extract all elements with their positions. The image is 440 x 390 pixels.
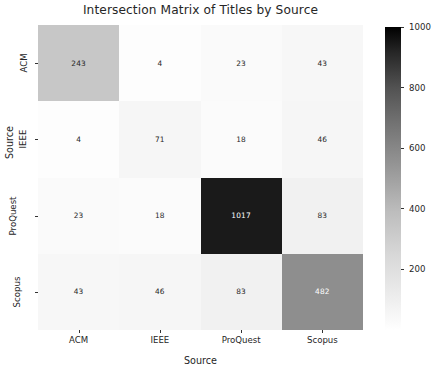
cell-value: 83 — [317, 211, 327, 220]
cell-value: 1017 — [231, 211, 251, 220]
cell-value: 83 — [236, 287, 246, 296]
heatmap-cell[interactable]: 1017 — [201, 178, 282, 254]
cell-value: 46 — [317, 135, 327, 144]
heatmap-plot-area: 243 4 23 43 4 71 18 46 23 18 1017 83 43 … — [38, 25, 363, 330]
chart-title: Intersection Matrix of Titles by Source — [38, 3, 363, 17]
cell-value: 18 — [236, 135, 246, 144]
heatmap-grid: 243 4 23 43 4 71 18 46 23 18 1017 83 43 … — [38, 25, 363, 330]
heatmap-cell[interactable]: 46 — [282, 101, 363, 177]
cell-value: 23 — [236, 59, 246, 68]
heatmap-cell[interactable]: 4 — [119, 25, 200, 101]
cell-value: 43 — [74, 287, 84, 296]
x-axis-tick-ieee: IEEE — [119, 330, 200, 346]
heatmap-cell[interactable]: 23 — [38, 178, 119, 254]
colorbar[interactable]: 1000 800 600 400 200 — [385, 27, 401, 330]
cell-value: 4 — [76, 135, 81, 144]
cell-value: 243 — [71, 59, 86, 68]
heatmap-cell[interactable]: 46 — [119, 254, 200, 330]
heatmap-cell[interactable]: 243 — [38, 25, 119, 101]
heatmap-cell[interactable]: 43 — [38, 254, 119, 330]
figure: Intersection Matrix of Titles by Source … — [0, 0, 440, 390]
x-axis-tick-proquest: ProQuest — [201, 330, 282, 346]
cell-value: 46 — [155, 287, 165, 296]
x-axis-label: Source — [38, 355, 363, 366]
cell-value: 4 — [157, 59, 162, 68]
heatmap-cell[interactable]: 18 — [201, 101, 282, 177]
x-axis-tick-scopus: Scopus — [282, 330, 363, 346]
y-axis-tick-proquest: ProQuest — [4, 178, 38, 254]
cell-value: 43 — [317, 59, 327, 68]
heatmap-cell[interactable]: 83 — [201, 254, 282, 330]
cell-value: 23 — [74, 211, 84, 220]
x-axis-tick-acm: ACM — [38, 330, 119, 346]
cell-value: 71 — [155, 135, 165, 144]
y-axis-tick-scopus: Scopus — [4, 254, 38, 330]
heatmap-cell[interactable]: 71 — [119, 101, 200, 177]
heatmap-cell[interactable]: 4 — [38, 101, 119, 177]
heatmap-cell[interactable]: 83 — [282, 178, 363, 254]
y-axis-label: Source — [4, 145, 15, 159]
heatmap-cell[interactable]: 23 — [201, 25, 282, 101]
heatmap-cell[interactable]: 43 — [282, 25, 363, 101]
heatmap-cell[interactable]: 18 — [119, 178, 200, 254]
cell-value: 18 — [155, 211, 165, 220]
heatmap-cell[interactable]: 482 — [282, 254, 363, 330]
y-axis-tick-acm: ACM — [4, 25, 38, 101]
cell-value: 482 — [315, 287, 330, 296]
